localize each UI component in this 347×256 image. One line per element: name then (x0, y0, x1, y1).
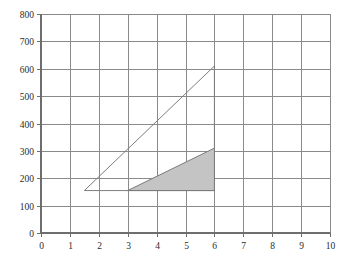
tick-label-y-200: 200 (20, 174, 35, 184)
tick-label-x-6: 6 (212, 241, 217, 251)
tick-label-x-9: 9 (299, 241, 304, 251)
tick-label-y-500: 500 (20, 92, 35, 102)
plot-background (41, 14, 330, 233)
tick-label-x-10: 10 (326, 241, 336, 251)
tick-label-x-4: 4 (155, 241, 160, 251)
chart-plot: 0100200300400500600700800 012345678910 (0, 0, 347, 256)
chart-container: 0100200300400500600700800 012345678910 (0, 0, 347, 256)
tick-label-y-600: 600 (20, 65, 35, 75)
tick-label-y-400: 400 (20, 120, 35, 130)
tick-label-x-2: 2 (97, 241, 102, 251)
tick-label-y-700: 700 (20, 37, 35, 47)
tick-label-x-8: 8 (270, 241, 275, 251)
x-axis-tick-labels: 012345678910 (39, 241, 335, 251)
tick-label-x-0: 0 (39, 241, 44, 251)
tick-label-y-100: 100 (20, 202, 35, 212)
tick-label-y-800: 800 (20, 10, 35, 20)
tick-label-x-7: 7 (241, 241, 246, 251)
y-axis-tick-labels: 0100200300400500600700800 (20, 10, 35, 239)
tick-label-x-5: 5 (184, 241, 189, 251)
tick-label-y-300: 300 (20, 147, 35, 157)
tick-label-x-1: 1 (68, 241, 73, 251)
tick-label-y-0: 0 (29, 229, 34, 239)
tick-label-x-3: 3 (126, 241, 131, 251)
